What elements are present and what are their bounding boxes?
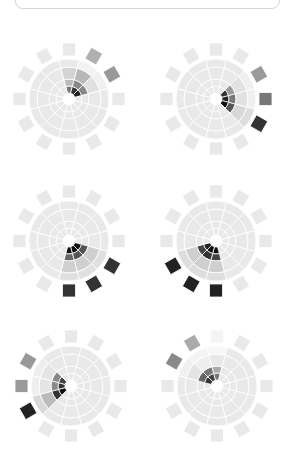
wheel-3-spoke-3-ring4 xyxy=(100,231,109,252)
wheel-2-spoke-10-petal xyxy=(164,65,182,83)
wheel-2-spoke-4-petal xyxy=(250,115,268,133)
wheel-1 xyxy=(9,39,129,159)
wheel-1-spoke-6-ring4 xyxy=(59,130,80,139)
wheel-4-spoke-4-petal xyxy=(250,257,268,275)
wheel-6-spoke-1-petal xyxy=(233,334,251,352)
wheel-2-spoke-5-petal xyxy=(232,133,250,151)
wheel-2-spoke-1-petal xyxy=(232,47,250,65)
wheel-4-spoke-0-petal xyxy=(210,185,223,198)
wheel-5-spoke-6-petal xyxy=(65,429,78,442)
wheel-3-spoke-9-petal xyxy=(13,235,26,248)
wheel-2-spoke-7-petal xyxy=(182,133,200,151)
wheel-3-spoke-3-petal xyxy=(112,235,125,248)
wheel-6-spoke-7-petal xyxy=(183,420,201,438)
wheel-4-spoke-9-petal xyxy=(160,235,173,248)
wheel-1-spoke-3-petal xyxy=(112,93,125,106)
wheel-5 xyxy=(11,326,131,446)
wheel-4-spoke-3-ring4 xyxy=(247,231,256,252)
wheel-2-spoke-0-ring4 xyxy=(206,59,227,68)
wheel-5-spoke-6-ring4 xyxy=(61,417,82,426)
wheel-4-spoke-3-petal xyxy=(259,235,272,248)
wheel-5-spoke-5-petal xyxy=(87,420,105,438)
wheel-4-spoke-8-petal xyxy=(164,257,182,275)
wheel-5-spoke-3-ring4 xyxy=(102,376,111,397)
wheel-3-spoke-2-petal xyxy=(103,207,121,225)
wheel-5-spoke-11-petal xyxy=(37,334,55,352)
wheel-4-spoke-9-ring4 xyxy=(176,231,185,252)
wheel-5-spoke-7-petal xyxy=(37,420,55,438)
wheel-3 xyxy=(9,181,129,301)
wheel-5-spoke-8-petal xyxy=(19,402,37,420)
wheel-4-spoke-7-petal xyxy=(182,275,200,293)
wheel-3-spoke-6-ring4 xyxy=(59,272,80,281)
wheel-3-spoke-0-petal xyxy=(63,185,76,198)
wheel-2-spoke-9-ring4 xyxy=(176,89,185,110)
wheel-6-spoke-5-petal xyxy=(233,420,251,438)
wheel-2-spoke-6-ring4 xyxy=(206,130,227,139)
wheel-5-spoke-10-petal xyxy=(19,352,37,370)
wheel-2-spoke-3-ring4 xyxy=(247,89,256,110)
wheel-1-spoke-10-petal xyxy=(17,65,35,83)
wheel-5-spoke-0-petal xyxy=(65,330,78,343)
wheel-6-spoke-9-ring4 xyxy=(177,376,186,397)
wheel-5-spoke-2-petal xyxy=(105,352,123,370)
wheel-3-spoke-4-petal xyxy=(103,257,121,275)
wheel-5-spoke-4-petal xyxy=(105,402,123,420)
wheel-3-spoke-0-ring4 xyxy=(59,201,80,210)
wheel-3-spoke-5-petal xyxy=(85,275,103,293)
wheel-6-spoke-2-petal xyxy=(251,352,269,370)
wheel-1-spoke-6-petal xyxy=(63,142,76,155)
wheel-6-spoke-3-petal xyxy=(260,380,273,393)
wheel-1-spoke-0-petal xyxy=(63,43,76,56)
wheel-6 xyxy=(157,326,277,446)
wheel-1-spoke-3-ring4 xyxy=(100,89,109,110)
wheel-1-spoke-1-petal xyxy=(85,47,103,65)
wheel-6-spoke-11-petal xyxy=(183,334,201,352)
wheel-4-spoke-5-petal xyxy=(232,275,250,293)
wheel-3-spoke-6-petal xyxy=(63,284,76,297)
wheel-6-spoke-3-ring4 xyxy=(248,376,257,397)
top-card-edge xyxy=(15,0,280,9)
wheel-4-spoke-1-petal xyxy=(232,189,250,207)
wheel-1-spoke-4-petal xyxy=(103,115,121,133)
wheel-6-spoke-9-petal xyxy=(161,380,174,393)
wheel-6-spoke-8-petal xyxy=(165,402,183,420)
wheel-2-spoke-3-petal xyxy=(259,93,272,106)
wheel-6-spoke-6-ring4 xyxy=(207,417,228,426)
wheel-3-spoke-9-ring4 xyxy=(29,231,38,252)
wheel-3-spoke-11-petal xyxy=(35,189,53,207)
wheel-1-spoke-11-petal xyxy=(35,47,53,65)
wheel-1-spoke-5-petal xyxy=(85,133,103,151)
wheel-6-spoke-6-petal xyxy=(211,429,224,442)
wheel-3-spoke-10-petal xyxy=(17,207,35,225)
wheel-5-spoke-1-petal xyxy=(87,334,105,352)
wheel-2-spoke-2-petal xyxy=(250,65,268,83)
wheel-4-spoke-10-petal xyxy=(164,207,182,225)
wheel-2 xyxy=(156,39,276,159)
wheel-5-spoke-0-ring4 xyxy=(61,346,82,355)
wheel-1-spoke-0-ring4 xyxy=(59,59,80,68)
wheel-1-spoke-7-petal xyxy=(35,133,53,151)
wheel-5-spoke-9-petal xyxy=(15,380,28,393)
wheel-6-spoke-4-petal xyxy=(251,402,269,420)
wheel-2-spoke-8-petal xyxy=(164,115,182,133)
wheel-2-spoke-6-petal xyxy=(210,142,223,155)
wheel-1-spoke-2-petal xyxy=(103,65,121,83)
wheel-4-spoke-11-petal xyxy=(182,189,200,207)
wheel-2-spoke-11-petal xyxy=(182,47,200,65)
wheel-4 xyxy=(156,181,276,301)
wheel-6-spoke-0-petal xyxy=(211,330,224,343)
wheel-3-spoke-7-petal xyxy=(35,275,53,293)
wheel-3-spoke-8-petal xyxy=(17,257,35,275)
wheel-4-spoke-2-petal xyxy=(250,207,268,225)
wheel-3-spoke-1-petal xyxy=(85,189,103,207)
wheel-6-spoke-10-petal xyxy=(165,352,183,370)
wheel-4-spoke-6-ring4 xyxy=(206,272,227,281)
wheel-4-spoke-6-petal xyxy=(210,284,223,297)
wheel-6-spoke-0-ring4 xyxy=(207,346,228,355)
wheel-5-spoke-9-ring4 xyxy=(31,376,40,397)
wheel-1-spoke-8-petal xyxy=(17,115,35,133)
wheel-1-spoke-9-ring4 xyxy=(29,89,38,110)
wheel-2-spoke-0-petal xyxy=(210,43,223,56)
wheel-1-spoke-9-petal xyxy=(13,93,26,106)
